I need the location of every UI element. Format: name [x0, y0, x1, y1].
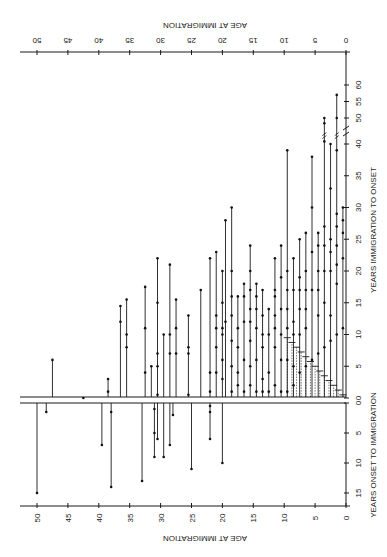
svg-text:10: 10 — [354, 458, 363, 467]
svg-text:40: 40 — [354, 139, 363, 148]
svg-text:25: 25 — [187, 36, 196, 45]
svg-text:YEARS ONSET TO IMMIGRATION: YEARS ONSET TO IMMIGRATION — [369, 392, 378, 518]
svg-text:40: 40 — [95, 513, 104, 522]
svg-text:0: 0 — [354, 400, 363, 405]
svg-text:YEARS IMMIGRATION TO ONSET: YEARS IMMIGRATION TO ONSET — [369, 167, 378, 293]
svg-text:30: 30 — [354, 203, 363, 212]
svg-text:10: 10 — [279, 36, 288, 45]
svg-text:30: 30 — [156, 36, 165, 45]
svg-text:15: 15 — [248, 36, 257, 45]
svg-text:AGE AT IMMIGRATION: AGE AT IMMIGRATION — [163, 21, 247, 30]
axes — [20, 50, 350, 508]
svg-text:50: 50 — [354, 113, 363, 122]
svg-text:20: 20 — [217, 36, 226, 45]
svg-text:40: 40 — [94, 36, 103, 45]
segment-chart: 5050454540403535303025252020151510105500… — [0, 0, 387, 557]
svg-text:AGE AT IMMIGRATION: AGE AT IMMIGRATION — [163, 534, 247, 543]
svg-text:25: 25 — [188, 513, 197, 522]
svg-text:50: 50 — [33, 513, 42, 522]
svg-text:15: 15 — [354, 298, 363, 307]
axis-labels: 5050454540403535303025252020151510105500… — [32, 21, 378, 543]
svg-text:45: 45 — [63, 36, 72, 45]
svg-text:30: 30 — [157, 513, 166, 522]
svg-text:35: 35 — [354, 171, 363, 180]
svg-text:0: 0 — [343, 36, 348, 45]
svg-text:0: 0 — [342, 515, 351, 520]
svg-text:60: 60 — [354, 80, 363, 89]
data-segments — [36, 94, 345, 495]
svg-text:35: 35 — [125, 36, 134, 45]
svg-text:5: 5 — [354, 430, 363, 435]
svg-text:45: 45 — [64, 513, 73, 522]
svg-text:20: 20 — [354, 266, 363, 275]
svg-text:10: 10 — [280, 513, 289, 522]
svg-text:5: 5 — [354, 363, 363, 368]
svg-text:55: 55 — [354, 97, 363, 106]
svg-text:25: 25 — [354, 234, 363, 243]
svg-text:5: 5 — [311, 515, 320, 520]
svg-text:0: 0 — [354, 395, 363, 400]
svg-text:20: 20 — [218, 513, 227, 522]
svg-text:15: 15 — [354, 488, 363, 497]
svg-text:5: 5 — [312, 36, 317, 45]
svg-text:50: 50 — [32, 36, 41, 45]
svg-text:15: 15 — [249, 513, 258, 522]
svg-text:10: 10 — [354, 330, 363, 339]
svg-text:35: 35 — [126, 513, 135, 522]
